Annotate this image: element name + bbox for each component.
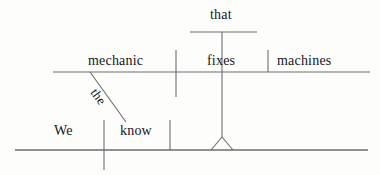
diagram-lines (0, 0, 380, 175)
word-know: know (120, 124, 152, 138)
pedestal-leg-right (222, 137, 233, 150)
word-we: We (54, 124, 73, 138)
word-fixes: fixes (207, 54, 235, 68)
word-mechanic: mechanic (88, 54, 143, 68)
word-that: that (210, 8, 232, 22)
sentence-diagram: that mechanic the fixes machines We know (0, 0, 380, 175)
word-machines: machines (277, 54, 331, 68)
pedestal-leg-left (211, 137, 222, 150)
